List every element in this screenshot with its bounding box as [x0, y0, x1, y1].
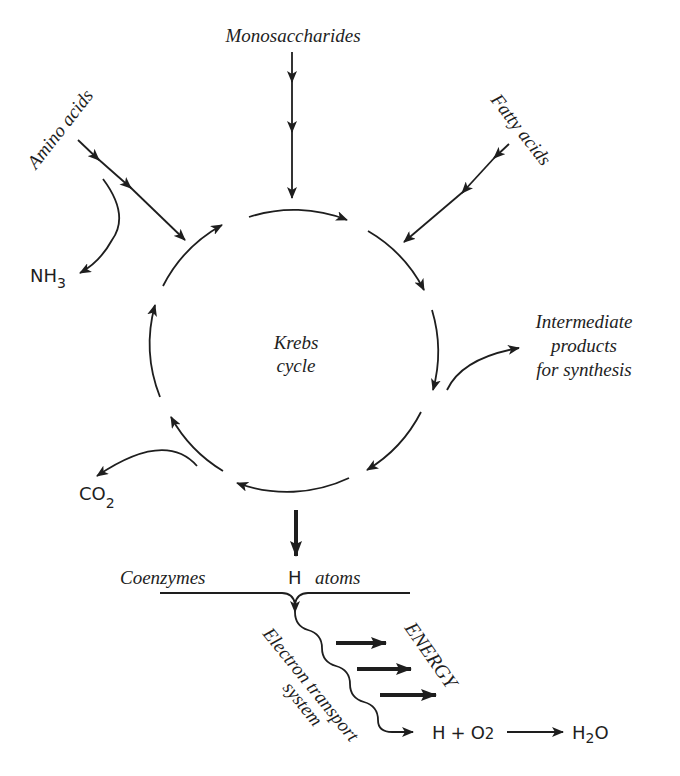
- reaction-product: H2O: [572, 722, 609, 746]
- cycle-arrow-upper-left: [163, 225, 222, 286]
- amino-acids-label: Amino acids: [21, 85, 97, 174]
- krebs-cycle-label-line2: cycle: [276, 355, 315, 376]
- amino-acids-arrow: [78, 140, 185, 240]
- h-atoms-word: atoms: [315, 567, 360, 588]
- cycle-arrow-left: [150, 305, 160, 397]
- intermediate-products-arrow: [447, 348, 519, 390]
- coenzymes-label: Coenzymes: [120, 567, 205, 588]
- monosaccharides-label: Monosaccharides: [224, 25, 360, 46]
- cycle-arrow-lower-left: [171, 417, 223, 471]
- carbon-dioxide-label: CO2: [79, 483, 115, 511]
- coenzyme-line: [160, 593, 295, 604]
- ammonia-label: NH3: [30, 265, 66, 291]
- h-atoms-symbol: H: [288, 567, 302, 588]
- cycle-arrow-top: [249, 210, 347, 220]
- coenzyme-line-right: [295, 593, 410, 604]
- intermediate-products-line1: Intermediate: [534, 311, 632, 332]
- fatty-acids-label: Fatty acids: [486, 89, 555, 170]
- carbon-dioxide-release-arrow: [97, 450, 197, 476]
- reaction-reactants: H+O2: [432, 722, 494, 743]
- intermediate-products-line3: for synthesis: [536, 359, 632, 380]
- cycle-arrow-upper-right: [368, 231, 424, 290]
- intermediate-products-line2: products: [549, 335, 617, 356]
- fatty-acids-arrow: [404, 144, 509, 242]
- krebs-cycle-label-line1: Krebs: [273, 332, 319, 353]
- ammonia-release-arrow: [80, 179, 119, 273]
- cycle-arrow-bottom: [237, 478, 349, 492]
- cycle-arrow-right: [432, 310, 438, 390]
- energy-label: ENERGY: [400, 617, 463, 694]
- cycle-arrow-lower-right: [367, 412, 421, 470]
- krebs-cycle-diagram: Krebs cycle Monosaccharides Amino acids …: [0, 0, 680, 776]
